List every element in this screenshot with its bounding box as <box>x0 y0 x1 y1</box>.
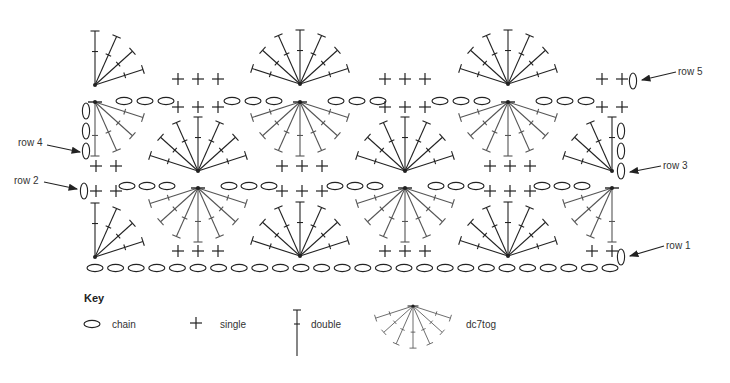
single-stitch <box>316 160 328 172</box>
single-stitch <box>379 101 391 113</box>
dc7tog-fan <box>356 117 455 173</box>
single-stitch <box>524 160 536 172</box>
dc7tog-fan <box>251 30 350 86</box>
row-2-arrow-icon <box>44 182 77 189</box>
chain-stitch <box>617 249 624 265</box>
chain-stitch <box>468 182 484 189</box>
single-stitch <box>172 245 184 257</box>
chain-stitch <box>252 264 268 271</box>
chain-stitch <box>458 264 474 271</box>
key-label-double: double <box>311 319 341 330</box>
single-stitch <box>192 101 204 113</box>
chain-stitch <box>474 97 490 104</box>
single-key-icon <box>190 317 202 329</box>
chain-stitch <box>367 182 383 189</box>
chain-stitch <box>629 73 636 89</box>
chain-stitch <box>158 97 174 104</box>
row-3-arrow-icon <box>630 166 661 172</box>
key-label-single: single <box>220 319 246 330</box>
chain-stitch <box>328 97 344 104</box>
single-stitch <box>276 185 288 197</box>
crochet-chart <box>0 0 730 383</box>
dc7tog-fan <box>356 186 455 242</box>
chain-stitch <box>617 123 624 139</box>
single-stitch <box>484 185 496 197</box>
chain-stitch <box>266 97 282 104</box>
chain-stitch <box>557 97 573 104</box>
chain-stitch <box>272 264 288 271</box>
row-1-label: row 1 <box>666 240 690 251</box>
single-stitch <box>606 245 618 257</box>
row-5-arrow-icon <box>642 72 676 80</box>
chain-stitch <box>428 182 444 189</box>
chain-stitch <box>169 264 185 271</box>
dc7tog-fan <box>149 186 248 242</box>
single-stitch <box>419 245 431 257</box>
single-stitch <box>192 73 204 85</box>
chain-stitch <box>245 97 261 104</box>
chain-stitch <box>574 182 590 189</box>
single-stitch <box>172 101 184 113</box>
single-stitch <box>172 73 184 85</box>
chain-stitch <box>80 183 87 199</box>
chain-stitch <box>540 264 556 271</box>
chain-stitch <box>437 264 453 271</box>
chain-stitch <box>211 264 227 271</box>
chain-stitch <box>149 264 165 271</box>
chain-stitch <box>82 143 89 159</box>
chain-stitch <box>347 182 363 189</box>
key-label-dc7tog: dc7tog <box>466 319 496 330</box>
chain-stitch <box>554 182 570 189</box>
chain-key-icon <box>84 320 100 327</box>
key-label-chain: chain <box>112 319 136 330</box>
single-stitch <box>212 73 224 85</box>
single-stitch <box>399 245 411 257</box>
chain-stitch <box>327 182 343 189</box>
chain-stitch <box>561 264 577 271</box>
chain-stitch <box>602 264 618 271</box>
row-5-label: row 5 <box>678 66 702 77</box>
chain-stitch <box>581 264 597 271</box>
single-stitch <box>399 101 411 113</box>
chain-stitch <box>190 264 206 271</box>
chain-stitch <box>534 182 550 189</box>
single-stitch <box>192 245 204 257</box>
single-stitch <box>90 160 102 172</box>
key-symbols <box>84 304 451 356</box>
single-stitch <box>110 185 122 197</box>
chain-stitch <box>478 264 494 271</box>
key-title: Key <box>84 292 104 304</box>
single-stitch <box>586 245 598 257</box>
chain-stitch <box>396 264 412 271</box>
chain-stitch <box>159 182 175 189</box>
dc7tog-fan <box>91 203 145 259</box>
single-stitch <box>110 160 122 172</box>
single-stitch <box>596 101 608 113</box>
single-stitch <box>379 73 391 85</box>
single-stitch <box>296 160 308 172</box>
chain-stitch <box>375 264 391 271</box>
chain-stitch <box>261 182 277 189</box>
row-4-arrow-icon <box>47 145 80 152</box>
chain-stitch <box>139 182 155 189</box>
dc7tog-fan <box>149 117 248 173</box>
single-stitch <box>90 185 102 197</box>
row-3-label: row 3 <box>663 160 687 171</box>
row-1-arrow-icon <box>630 246 664 256</box>
chain-stitch <box>82 123 89 139</box>
chain-stitch <box>355 264 371 271</box>
chain-stitch <box>137 97 153 104</box>
dc7tog-key-icon <box>375 304 452 348</box>
dc7tog-fan <box>563 117 617 173</box>
row-4-label: row 4 <box>18 137 42 148</box>
chain-stitch <box>334 264 350 271</box>
single-stitch <box>419 73 431 85</box>
dc7tog-fan <box>88 100 144 156</box>
single-stitch <box>484 160 496 172</box>
dc7tog-fan <box>251 202 350 258</box>
chain-stitch <box>108 264 124 271</box>
single-stitch <box>596 73 608 85</box>
dc7tog-fan <box>459 202 558 258</box>
double-key-icon <box>293 310 301 356</box>
chain-stitch <box>417 264 433 271</box>
